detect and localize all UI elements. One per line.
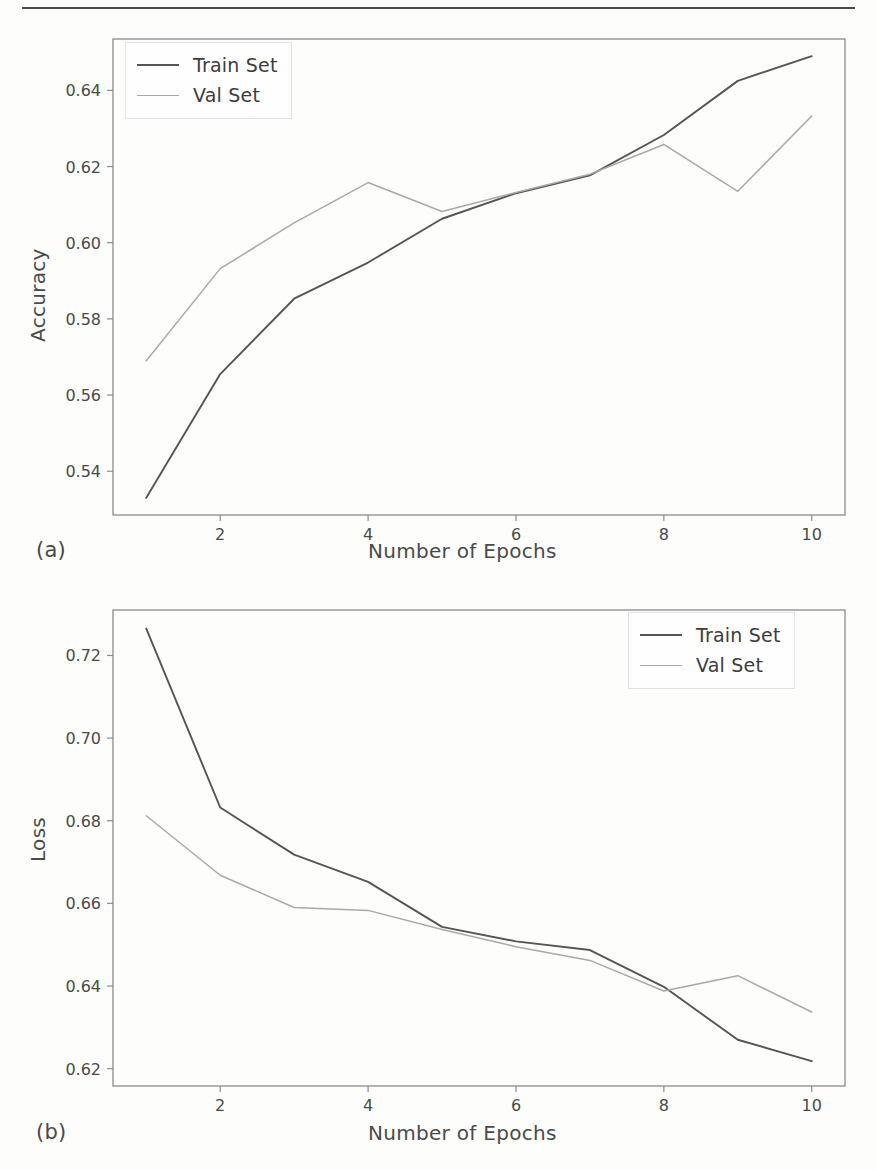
legend-label-val: Val Set <box>696 654 763 676</box>
accuracy-legend: Train Set Val Set <box>125 42 292 119</box>
legend-label-val: Val Set <box>193 84 260 106</box>
x-tick-label: 10 <box>802 525 822 544</box>
y-tick-label: 0.54 <box>35 462 101 481</box>
chart-panel-accuracy: 0.540.560.580.600.620.64 246810 Accuracy… <box>0 12 877 597</box>
x-tick-label: 2 <box>215 525 225 544</box>
panel-label-b: (b) <box>36 1120 66 1144</box>
y-tick-label: 0.62 <box>35 1059 101 1078</box>
y-tick-label: 0.62 <box>35 157 101 176</box>
y-tick-label: 0.70 <box>35 729 101 748</box>
panel-label-a: (a) <box>36 538 66 562</box>
x-tick-label: 8 <box>659 1096 669 1115</box>
loss-y-axis-title: Loss <box>26 817 50 862</box>
y-tick-label: 0.72 <box>35 646 101 665</box>
loss-x-axis-title: Number of Epochs <box>368 1121 557 1145</box>
legend-line-swatch-train <box>137 64 179 66</box>
y-tick-label: 0.56 <box>35 386 101 405</box>
legend-entry-train: Train Set <box>640 620 781 650</box>
x-tick-label: 2 <box>215 1096 225 1115</box>
accuracy-x-axis-title: Number of Epochs <box>368 539 557 563</box>
loss-val-line <box>146 816 811 1012</box>
accuracy-y-tick-marks <box>107 90 113 471</box>
legend-entry-train: Train Set <box>137 50 278 80</box>
legend-entry-val: Val Set <box>137 80 278 110</box>
accuracy-val-line <box>146 116 811 361</box>
legend-line-swatch-val <box>137 95 179 96</box>
top-horizontal-rule <box>22 7 855 9</box>
y-tick-label: 0.66 <box>35 894 101 913</box>
loss-x-tick-marks <box>220 1086 812 1092</box>
x-tick-label: 4 <box>363 1096 373 1115</box>
y-tick-label: 0.64 <box>35 81 101 100</box>
loss-y-tick-marks <box>107 655 113 1068</box>
legend-label-train: Train Set <box>193 54 278 76</box>
legend-label-train: Train Set <box>696 624 781 646</box>
loss-legend: Train Set Val Set <box>628 612 795 689</box>
y-tick-label: 0.64 <box>35 977 101 996</box>
accuracy-y-axis-title: Accuracy <box>26 248 50 342</box>
legend-line-swatch-val <box>640 665 682 666</box>
legend-line-swatch-train <box>640 634 682 636</box>
accuracy-train-line <box>146 56 811 498</box>
x-tick-label: 6 <box>511 1096 521 1115</box>
x-tick-label: 8 <box>659 525 669 544</box>
x-tick-label: 10 <box>802 1096 822 1115</box>
chart-panel-loss: 0.620.640.660.680.700.72 246810 Loss Num… <box>0 592 877 1170</box>
accuracy-x-tick-marks <box>220 515 812 521</box>
figure-page: 0.540.560.580.600.620.64 246810 Accuracy… <box>0 0 877 1170</box>
legend-entry-val: Val Set <box>640 650 781 680</box>
loss-train-line <box>146 629 811 1062</box>
